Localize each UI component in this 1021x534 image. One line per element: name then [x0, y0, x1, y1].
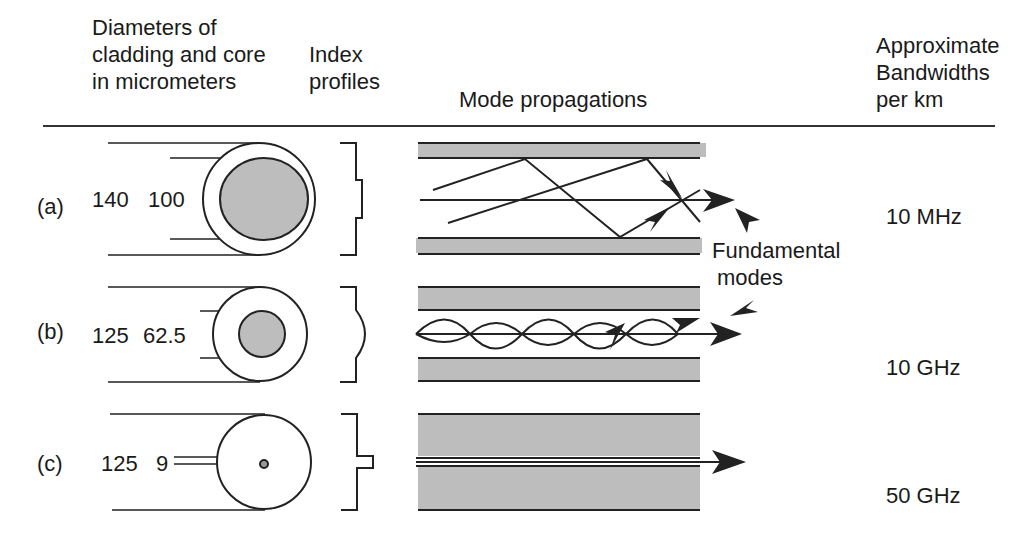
fiber-diagram — [0, 0, 1021, 534]
row-c-core: 9 — [156, 450, 168, 477]
row-b-modes — [416, 287, 758, 381]
row-a-cladding: 140 — [92, 186, 129, 213]
row-a-core: 100 — [148, 186, 185, 213]
row-c-label: (c) — [37, 450, 63, 477]
row-c-cladding: 125 — [101, 450, 138, 477]
row-b-bandwidth: 10 GHz — [886, 354, 961, 381]
annotation-fundamental: Fundamental — [712, 237, 840, 264]
annotation-modes: modes — [717, 264, 783, 291]
row-a-bandwidth: 10 MHz — [886, 203, 962, 230]
row-a-cross-section — [108, 143, 362, 255]
row-b-core: 62.5 — [143, 322, 186, 349]
row-a-label: (a) — [37, 193, 64, 220]
row-b-cladding: 125 — [92, 322, 129, 349]
row-c-cross-section — [110, 414, 373, 510]
row-b-label: (b) — [37, 318, 64, 345]
row-a-modes — [416, 143, 760, 254]
row-c-modes — [416, 414, 746, 510]
row-c-bandwidth: 50 GHz — [886, 482, 961, 509]
